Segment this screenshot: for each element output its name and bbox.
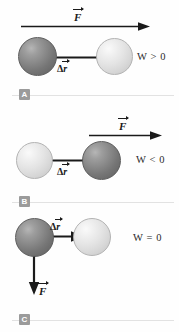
panel-c-force-label-text: F <box>39 285 46 297</box>
panel-a-work-text: W > 0 <box>137 52 166 63</box>
panel-b-force-label-text: F <box>119 120 126 132</box>
panel-a-force-label-text: F <box>74 11 81 23</box>
panel-a-key: A <box>19 89 30 100</box>
panel-c: Δr F W = 0 C <box>0 210 179 332</box>
panel-a-displacement-label: Δr <box>57 63 67 74</box>
panel-b-start-sphere <box>82 141 121 180</box>
panel-b-end-sphere <box>16 142 53 179</box>
panel-c-force-label: F <box>39 285 46 297</box>
panel-a-start-sphere <box>18 37 57 76</box>
panel-b-work-text: W < 0 <box>136 155 165 166</box>
panel-a-force-label: F <box>74 11 81 23</box>
panel-c-displacement-label: Δr <box>50 221 60 232</box>
panel-b-displacement-label: Δr <box>57 166 67 177</box>
panel-c-divider <box>12 320 174 321</box>
panel-b-force-label: F <box>119 120 126 132</box>
panel-a-end-sphere <box>96 38 133 75</box>
panel-a: F Δr W > 0 A <box>0 0 179 105</box>
panel-a-stage: F Δr W > 0 A <box>0 0 179 105</box>
panel-a-divider <box>12 95 174 96</box>
panel-c-start-sphere <box>15 218 54 257</box>
work-force-displacement-figure: F Δr W > 0 A F <box>0 0 179 332</box>
panel-b-divider <box>12 202 174 203</box>
panel-b-key: B <box>19 196 30 207</box>
panel-c-stage: Δr F W = 0 C <box>0 210 179 332</box>
panel-c-end-sphere <box>73 218 111 256</box>
panel-a-displacement-label-text: r <box>63 63 67 74</box>
panel-c-displacement-label-text: r <box>56 221 60 232</box>
panel-b: F Δr W < 0 B <box>0 105 179 210</box>
panel-c-key: C <box>19 314 30 325</box>
panel-b-stage: F Δr W < 0 B <box>0 105 179 210</box>
panel-b-displacement-label-text: r <box>63 166 67 177</box>
panel-c-work-text: W = 0 <box>133 233 162 244</box>
